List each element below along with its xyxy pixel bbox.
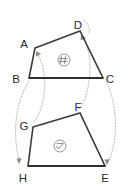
vertex-b[interactable]: [24, 73, 34, 83]
check-mark-icon: [57, 143, 64, 149]
upper-shape-marker: [58, 54, 70, 66]
arrow-c-to-e: [104, 82, 115, 165]
vertex-label-b: B: [12, 73, 20, 85]
vertex-label-g: G: [20, 120, 29, 132]
vertex-labels-layer: A D C B G F E H: [12, 19, 114, 184]
vertex-d[interactable]: [75, 26, 85, 36]
vertex-a[interactable]: [30, 43, 40, 53]
upper-marker-circle: [58, 54, 70, 66]
arrow-b-to-h-head: [16, 158, 21, 164]
vertex-g[interactable]: [28, 122, 38, 132]
lower-quadrilateral-outline[interactable]: [28, 113, 105, 166]
lower-marker-circle: [54, 140, 66, 152]
geometry-diagram: A D C B G F E H: [0, 0, 123, 195]
diagram-canvas: A D C B G F E H: [0, 0, 123, 195]
vertex-e[interactable]: [100, 161, 110, 171]
arrow-f-to-d: [79, 34, 90, 109]
lower-quadrilateral[interactable]: [28, 113, 105, 166]
hash-mark-icon: [59, 57, 67, 64]
vertex-c[interactable]: [98, 73, 108, 83]
vertex-h[interactable]: [23, 161, 33, 171]
vertex-f[interactable]: [75, 108, 85, 118]
arrow-g-to-a-path: [34, 55, 45, 122]
vertex-label-h: H: [19, 172, 27, 184]
arrow-g-to-a: [34, 51, 45, 122]
vertex-label-a: A: [20, 38, 28, 50]
vertex-label-e: E: [101, 172, 109, 184]
lower-shape-marker: [54, 140, 66, 152]
arrow-c-to-e-path: [106, 82, 115, 160]
